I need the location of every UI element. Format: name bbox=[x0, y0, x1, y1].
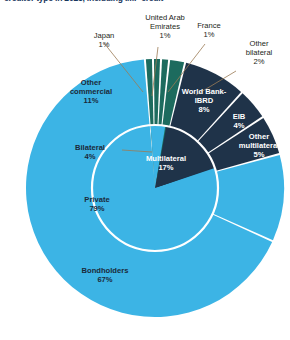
label-other-bilateral-value: 2% bbox=[233, 58, 285, 67]
label-bondholders-value: 67% bbox=[67, 276, 143, 285]
label-japan-value: 1% bbox=[76, 41, 132, 50]
label-bilateral: Bilateral 4% bbox=[62, 144, 118, 162]
label-multilateral: Multilateral 17% bbox=[135, 155, 197, 173]
label-eib-value: 4% bbox=[222, 122, 256, 131]
label-private: Private 79% bbox=[69, 196, 125, 214]
label-other-bilateral: Other bilateral 2% bbox=[233, 40, 285, 67]
label-france-value: 1% bbox=[182, 31, 236, 40]
label-other-commercial-value: 11% bbox=[58, 97, 124, 106]
label-world-bank-ibrd: World Bank- IBRD 8% bbox=[173, 88, 235, 115]
label-private-value: 79% bbox=[69, 205, 125, 214]
label-japan: Japan 1% bbox=[76, 32, 132, 50]
label-bilateral-value: 4% bbox=[62, 153, 118, 162]
label-eib: EIB 4% bbox=[222, 113, 256, 131]
label-other-multilateral-value: 5% bbox=[231, 151, 287, 160]
label-other-commercial: Other commercial 11% bbox=[58, 79, 124, 106]
label-multilateral-value: 17% bbox=[135, 164, 197, 173]
pie-chart-figure: creditor type in 2023, including IMF cre… bbox=[0, 0, 290, 340]
label-bondholders: Bondholders 67% bbox=[67, 267, 143, 285]
label-france: France 1% bbox=[182, 22, 236, 40]
label-other-multilateral: Other multilateral 5% bbox=[231, 133, 287, 160]
